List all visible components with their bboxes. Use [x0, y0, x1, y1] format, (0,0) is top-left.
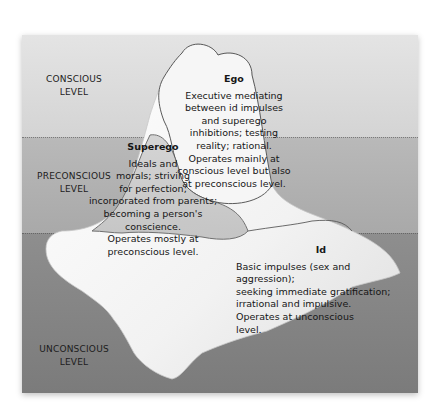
level-label-line: LEVEL — [26, 86, 122, 99]
ego-text-line: Executive mediating — [166, 90, 302, 103]
conscious-level-label: CONSCIOUS LEVEL — [26, 73, 122, 99]
superego-text-line: morals; striving — [78, 170, 228, 183]
unconscious-level-label: UNCONSCIOUS LEVEL — [26, 343, 122, 369]
id-title: Id — [236, 244, 406, 257]
superego-text-line: incorporated from parents; — [78, 195, 228, 208]
level-label-line: CONSCIOUS — [26, 73, 122, 86]
id-text-line: Basic impulses (sex and aggression); — [236, 261, 406, 286]
id-text-line: Operates at unconscious — [236, 311, 406, 324]
superego-text-line: preconscious level. — [78, 246, 228, 259]
id-text-line: level. — [236, 324, 406, 337]
superego-text-line: becoming a person's conscience. — [78, 208, 228, 233]
level-label-line: LEVEL — [26, 356, 122, 369]
superego-title: Superego — [78, 141, 228, 154]
ego-text-line: between id impulses — [166, 102, 302, 115]
id-region: Id Basic impulses (sex and aggression); … — [236, 244, 406, 336]
superego-text-line: Operates mostly at — [78, 233, 228, 246]
id-text-line: seeking immediate gratification; — [236, 286, 406, 299]
superego-region: Superego Ideals and morals; striving for… — [78, 141, 228, 258]
level-label-line: UNCONSCIOUS — [26, 343, 122, 356]
id-text-line: irrational and impulsive. — [236, 298, 406, 311]
ego-title: Ego — [166, 73, 302, 86]
iceberg-diagram: CONSCIOUS LEVEL PRECONSCIOUS LEVEL UNCON… — [22, 35, 418, 393]
ego-text-line: and superego — [166, 115, 302, 128]
ego-text-line: inhibitions; testing — [166, 127, 302, 140]
superego-text-line: Ideals and — [78, 158, 228, 171]
superego-text-line: for perfection; — [78, 183, 228, 196]
